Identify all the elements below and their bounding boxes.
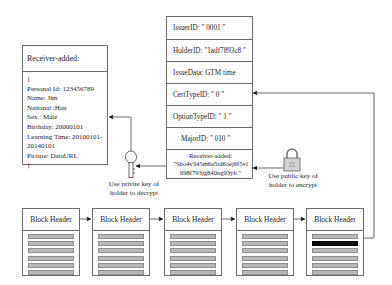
receiver-line: Learning Time: 20100101- (27, 133, 105, 143)
block-5: Block Header (306, 208, 364, 276)
transaction-bar (98, 256, 144, 261)
block-1: Block Header (22, 208, 80, 276)
block-header: Block Header (307, 209, 363, 231)
transaction-bar (170, 270, 216, 275)
transaction-bar (28, 241, 74, 246)
transaction-list (307, 231, 363, 275)
issuer-id-row: IssuerID: " 0001 " (167, 17, 252, 40)
transaction-bar (312, 270, 358, 275)
receiver-line: National :Han (27, 104, 105, 114)
holder-id-row: HolderID: "1adf7893c8 " (167, 40, 252, 62)
block-3: Block Header (164, 208, 222, 276)
transaction-bar (170, 263, 216, 268)
private-key-caption-line2: holder to decrypt (103, 189, 165, 198)
transaction-bar (28, 270, 74, 275)
receiver-data-box: Receiver-added: { Personal Id: 123456789… (22, 45, 108, 165)
transaction-bar (312, 234, 358, 239)
transaction-bar (242, 248, 288, 253)
receiver-box-content: { Personal Id: 123456789 Name: Jim Natio… (27, 75, 105, 171)
highlighted-transaction-bar (312, 241, 358, 246)
receiver-added-row: Receiver-added: "Sho4v345m6a5td6oej6f5vi… (167, 150, 252, 179)
issue-data-row: IssueData: GTM time (167, 62, 252, 84)
transaction-bar (312, 263, 358, 268)
transaction-bar (28, 234, 74, 239)
receiver-added-value-2: 698f793jg840ng93yh " (180, 169, 241, 177)
transaction-bar (98, 263, 144, 268)
private-key-caption-line1: Use privite key of (103, 180, 165, 189)
transaction-bar (312, 256, 358, 261)
receiver-line: 20140101 (27, 142, 105, 152)
transaction-bar (98, 270, 144, 275)
block-header: Block Header (93, 209, 149, 231)
block-header: Block Header (23, 209, 79, 231)
block-header: Block Header (165, 209, 221, 231)
block-header: Block Header (237, 209, 293, 231)
transaction-list (165, 231, 221, 275)
receiver-added-value-1: "Sho4v345m6a5td6oej6f5vi (173, 160, 248, 168)
public-key-caption: Use public key of holder to encrypt (262, 172, 324, 190)
receiver-line: Picture: DataURL (27, 152, 105, 162)
transaction-bar (170, 248, 216, 253)
certificate-box: IssuerID: " 0001 " HolderID: "1adf7893c8… (166, 16, 253, 179)
receiver-line: { (27, 75, 105, 85)
transaction-bar (242, 263, 288, 268)
public-key-caption-line2: holder to encrypt (262, 181, 324, 190)
lock-icon (283, 148, 301, 172)
transaction-bar (242, 270, 288, 275)
transaction-list (93, 231, 149, 275)
transaction-list (237, 231, 293, 275)
block-2: Block Header (92, 208, 150, 276)
transaction-bar (28, 256, 74, 261)
transaction-bar (312, 248, 358, 253)
receiver-line: } (27, 161, 105, 171)
transaction-bar (170, 256, 216, 261)
transaction-bar (242, 241, 288, 246)
receiver-line: Birthday: 20000101 (27, 123, 105, 133)
transaction-bar (98, 248, 144, 253)
transaction-bar (98, 241, 144, 246)
transaction-bar (28, 263, 74, 268)
transaction-bar (98, 234, 144, 239)
transaction-bar (170, 241, 216, 246)
option-type-id-row: OptionTypeID: " 1 " (167, 106, 252, 128)
cert-type-id-row: CertTypeID: " 0 " (167, 84, 252, 106)
transaction-bar (28, 248, 74, 253)
receiver-box-title: Receiver-added: (23, 46, 107, 72)
receiver-line: Sex : Male (27, 113, 105, 123)
transaction-bar (242, 256, 288, 261)
public-key-caption-line1: Use public key of (262, 172, 324, 181)
receiver-added-label: Receiver-added: (189, 152, 232, 160)
major-id-row: MajorID: " 010 " (167, 128, 252, 150)
transaction-bar (170, 234, 216, 239)
block-4: Block Header (236, 208, 294, 276)
transaction-list (23, 231, 79, 275)
receiver-line: Personal Id: 123456789 (27, 85, 105, 95)
transaction-bar (242, 234, 288, 239)
receiver-line: Name: Jim (27, 94, 105, 104)
private-key-caption: Use privite key of holder to decrypt (103, 180, 165, 198)
key-icon (124, 150, 138, 180)
